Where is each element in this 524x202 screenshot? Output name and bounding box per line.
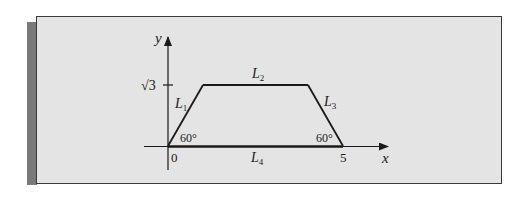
origin-label: 0 [171,150,178,165]
angle-label-left: 60° [180,131,197,145]
y-tick-label-sqrt3: √3 [141,78,156,93]
angle-label-right: 60° [316,131,333,145]
label-L4: L4 [250,150,264,167]
label-L1: L1 [174,96,187,113]
label-L3: L3 [323,94,337,111]
label-L2: L2 [251,66,264,83]
trapezoid-figure: y x 0 5 √3 L1 L2 L3 L4 60° 60° [0,0,524,202]
y-axis-label: y [153,30,162,46]
x-tick-label-5: 5 [340,150,347,165]
x-axis-label: x [381,150,389,166]
